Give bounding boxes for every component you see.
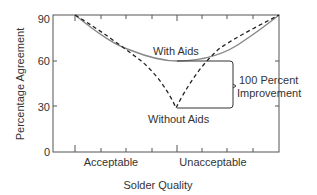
x-ticks-top — [75, 15, 253, 21]
y-label-0: 0 — [44, 146, 50, 158]
improvement-bracket — [177, 61, 233, 108]
chart-svg: 90 60 30 0 Percentage Agreement Acceptab… — [0, 0, 317, 195]
x-ticks-bottom — [75, 145, 253, 152]
y-axis-title: Percentage Agreement — [14, 28, 26, 141]
improvement-label-line1: 100 Percent — [239, 74, 298, 86]
chart: 90 60 30 0 Percentage Agreement Acceptab… — [0, 0, 317, 195]
y-label-30: 30 — [38, 101, 50, 113]
y-label-90: 90 — [38, 13, 50, 25]
y-label-60: 60 — [38, 55, 50, 67]
x-axis-title: Solder Quality — [123, 179, 193, 191]
improvement-label-line2: Improvement — [237, 87, 301, 99]
with-aids-label: With Aids — [153, 45, 199, 57]
x-label-acceptable: Acceptable — [84, 156, 138, 168]
without-aids-label: Without Aids — [148, 113, 210, 125]
x-label-unacceptable: Unacceptable — [179, 156, 246, 168]
